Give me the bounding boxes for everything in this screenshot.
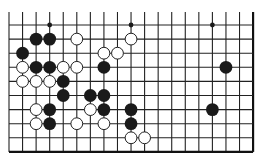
black-stone-icon — [125, 103, 138, 116]
white-stone-icon — [17, 76, 29, 88]
stones — [16, 33, 232, 144]
white-stone-icon — [71, 118, 83, 130]
white-stone-icon — [17, 61, 29, 73]
black-stone-icon — [16, 47, 29, 60]
white-stone-icon — [71, 33, 83, 45]
white-stone-icon — [125, 132, 137, 144]
white-stone-icon — [98, 47, 110, 59]
black-stone-icon — [43, 61, 56, 74]
black-stone-icon — [43, 117, 56, 130]
white-stone-icon — [44, 76, 56, 88]
white-stone-icon — [30, 104, 42, 116]
black-stone-icon — [98, 61, 111, 74]
black-stone-icon — [125, 117, 138, 130]
white-stone-icon — [30, 76, 42, 88]
white-stone-icon — [112, 47, 124, 59]
black-stone-icon — [43, 103, 56, 116]
go-board — [0, 0, 263, 164]
black-stone-icon — [206, 103, 219, 116]
black-stone-icon — [84, 89, 97, 102]
black-stone-icon — [30, 61, 43, 74]
white-stone-icon — [57, 61, 69, 73]
white-stone-icon — [98, 118, 110, 130]
star-point-icon — [210, 23, 215, 28]
black-stone-icon — [98, 103, 111, 116]
star-point-icon — [47, 23, 52, 28]
black-stone-icon — [30, 33, 43, 46]
white-stone-icon — [30, 118, 42, 130]
black-stone-icon — [220, 61, 233, 74]
white-stone-icon — [125, 33, 137, 45]
white-stone-icon — [84, 104, 96, 116]
black-stone-icon — [57, 75, 70, 88]
go-board-canvas — [0, 0, 263, 164]
star-point-icon — [129, 23, 134, 28]
white-stone-icon — [139, 132, 151, 144]
white-stone-icon — [71, 61, 83, 73]
black-stone-icon — [57, 89, 70, 102]
black-stone-icon — [98, 89, 111, 102]
black-stone-icon — [43, 33, 56, 46]
